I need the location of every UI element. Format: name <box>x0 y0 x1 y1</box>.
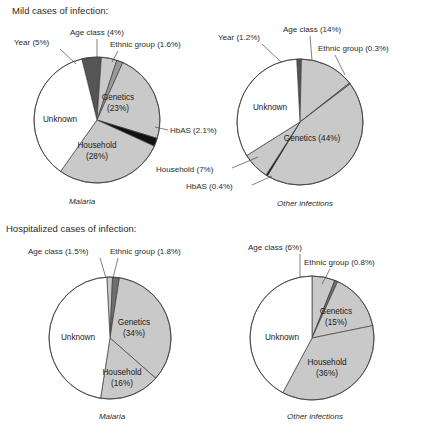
callout-mild-malaria-year: Year (5%) <box>14 38 50 47</box>
pie-caption-mild-other: Other infections <box>277 199 333 208</box>
leader-line-mild-other-year <box>262 44 281 62</box>
pie-caption-hosp-malaria: Malaria <box>99 412 126 421</box>
slice-label-hosp-other-unknown: Unknown <box>265 333 300 342</box>
callout-mild-other-year: Year (1.2%) <box>218 33 260 42</box>
leader-line-mild-other-age <box>310 36 312 60</box>
callout-mild-other-hbas: HbAS (0.4%) <box>186 182 233 191</box>
slice-label-mild-other-unknown: Unknown <box>253 103 288 112</box>
callout-mild-malaria-age: Age class (4%) <box>70 28 124 37</box>
pie-caption-mild-malaria: Malaria <box>69 197 96 206</box>
pie-mild-other: Year (1.2%)Age class (14%)Ethnic group (… <box>237 59 363 185</box>
leader-line-mild-malaria-year <box>60 49 76 64</box>
section-title-mild: Mild cases of infection: <box>12 5 108 16</box>
slice-label-mild-other-genetics: Genetics (44%) <box>284 134 341 143</box>
callout-hosp-malaria-age: Age class (1.5%) <box>28 247 89 256</box>
callout-mild-other-age: Age class (14%) <box>283 25 342 34</box>
section-title-hospitalized: Hospitalized cases of infection: <box>6 223 136 234</box>
slice-label-mild-malaria-unknown: Unknown <box>43 115 78 124</box>
callout-mild-other-household: Household (7%) <box>156 165 214 174</box>
callout-mild-malaria-ethnic: Ethnic group (1.6%) <box>110 40 181 49</box>
leader-line-hosp-malaria-ethnic <box>113 258 118 278</box>
callout-hosp-other-ethnic: Ethnic group (0.8%) <box>304 258 375 267</box>
callout-hosp-other-age: Age class (6%) <box>248 243 302 252</box>
slice-label-hosp-malaria-unknown: Unknown <box>61 333 96 342</box>
variance-components-figure: Mild cases of infection:Hospitalized cas… <box>0 0 422 440</box>
callout-hosp-malaria-ethnic: Ethnic group (1.8%) <box>110 247 181 256</box>
callout-mild-malaria-hbas: HbAS (2.1%) <box>170 126 217 135</box>
pie-caption-hosp-other: Other infections <box>287 412 343 421</box>
leader-line-hosp-malaria-age <box>100 258 106 278</box>
callout-mild-other-ethnic: Ethnic group (0.3%) <box>318 44 389 53</box>
leader-line-mild-other-hbas <box>252 176 272 185</box>
